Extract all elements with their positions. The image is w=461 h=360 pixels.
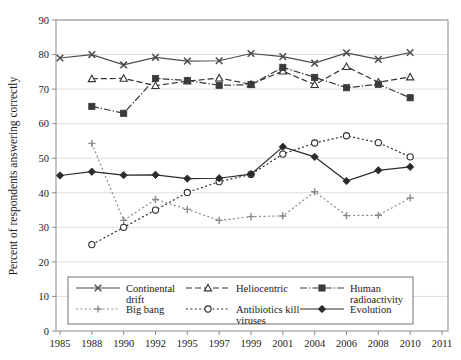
- legend-label-heliocentric: Heliocentric: [236, 283, 288, 294]
- y-tick-label-80: 80: [39, 49, 50, 60]
- data-point-1990: [121, 224, 127, 230]
- y-tick-label-50: 50: [39, 153, 50, 164]
- y-tick-label-70: 70: [39, 84, 50, 95]
- legend-label2-antibiotics-kill-viruses: viruses: [236, 315, 266, 326]
- data-point-2010: [407, 95, 413, 101]
- x-tick-label-1999: 1999: [241, 338, 262, 349]
- data-point-2001: [280, 151, 286, 157]
- data-point-1995: [184, 77, 190, 83]
- y-tick-label-10: 10: [39, 291, 50, 302]
- data-point-1992: [152, 207, 158, 213]
- y-tick-label-30: 30: [39, 222, 50, 233]
- legend-marker-antibiotics-kill-viruses: [205, 306, 211, 312]
- x-tick-label-1997: 1997: [209, 338, 230, 349]
- x-tick-label-2001: 2001: [272, 338, 293, 349]
- x-tick-label-2004: 2004: [304, 338, 326, 349]
- data-point-1997: [216, 82, 222, 88]
- data-point-2006: [343, 85, 349, 91]
- x-tick-label-1988: 1988: [81, 338, 102, 349]
- legend-label-antibiotics-kill-viruses: Antibiotics kill: [236, 304, 299, 315]
- science-literacy-trend-line-chart: 0102030405060708090 19851988199019921995…: [0, 0, 461, 360]
- y-axis-title: Percent of respondents answering correct…: [7, 76, 20, 275]
- legend-marker-human-radioactivity: [319, 285, 325, 291]
- data-point-2006: [343, 133, 349, 139]
- legend-label-evolution: Evolution: [350, 304, 392, 315]
- data-point-1995: [184, 189, 190, 195]
- data-point-1988: [89, 242, 95, 248]
- legend-label-human-radioactivity: Human: [350, 283, 382, 294]
- data-point-2010: [407, 154, 413, 160]
- y-tick-label-90: 90: [39, 15, 50, 26]
- chart-figure: 0102030405060708090 19851988199019921995…: [0, 0, 461, 360]
- x-tick-label-1985: 1985: [50, 338, 71, 349]
- legend-label-continental-drift: Continental: [126, 283, 175, 294]
- data-point-2001: [280, 64, 286, 70]
- x-tick-label-1995: 1995: [177, 338, 198, 349]
- x-tick-label-1990: 1990: [113, 338, 134, 349]
- y-tick-label-40: 40: [39, 188, 50, 199]
- x-tick-label-2008: 2008: [368, 338, 389, 349]
- data-point-2008: [375, 140, 381, 146]
- x-tick-label-1992: 1992: [145, 338, 166, 349]
- y-tick-label-0: 0: [44, 326, 49, 337]
- data-point-2004: [312, 74, 318, 80]
- x-tick-label-2010: 2010: [400, 338, 421, 349]
- y-tick-label-20: 20: [39, 257, 50, 268]
- x-tick-label-2011: 2011: [432, 338, 453, 349]
- chart-legend: ContinentaldriftHeliocentricHumanradioac…: [68, 277, 413, 326]
- data-point-2004: [312, 140, 318, 146]
- data-point-1992: [152, 75, 158, 81]
- data-point-1990: [121, 110, 127, 116]
- legend-label-big-bang: Big bang: [126, 304, 165, 315]
- data-point-1988: [89, 103, 95, 109]
- data-point-1999: [248, 82, 254, 88]
- data-point-2008: [375, 81, 381, 87]
- x-tick-label-2006: 2006: [336, 338, 357, 349]
- y-tick-label-60: 60: [39, 118, 50, 129]
